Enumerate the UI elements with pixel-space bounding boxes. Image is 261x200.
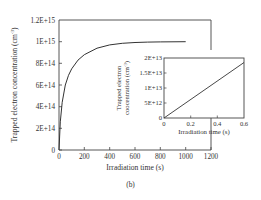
main-xtick-label: 1000 xyxy=(179,153,194,161)
main-x-axis-label: Irradiation time (s) xyxy=(106,163,164,172)
main-y-axis-label: Trapped electron concentration (cm-3) xyxy=(10,27,19,142)
inset-y-axis-label-line1: Trapped electron xyxy=(115,65,122,110)
main-ytick-label: 1E+15 xyxy=(36,38,56,46)
inset-x-axis-label: Irradiation time (s) xyxy=(178,128,229,136)
main-x-ticks: 0 200 400 600 800 1000 1200 xyxy=(57,147,218,161)
inset-ytick-label: 1E+13 xyxy=(144,84,162,91)
inset-xtick-label: 0.2 xyxy=(187,120,195,127)
main-ytick-label: 6E+14 xyxy=(36,82,56,90)
main-xtick-label: 600 xyxy=(130,153,141,161)
inset-ytick-label: 1.5E+13 xyxy=(139,69,162,76)
inset-xtick-label: 0 xyxy=(162,120,166,127)
main-xtick-label: 1200 xyxy=(204,153,219,161)
inset-xtick-label: 0.4 xyxy=(213,120,222,127)
main-ytick-label: 0 xyxy=(51,147,55,155)
main-ytick-label: 2E+14 xyxy=(36,125,56,133)
main-y-ticks: 0 2E+14 4E+14 6E+14 8E+14 1E+15 1.2E+15 xyxy=(30,17,62,155)
main-ytick-label: 8E+14 xyxy=(36,60,56,68)
figure: 0 2E+14 4E+14 6E+14 8E+14 1E+15 1.2E+15 … xyxy=(0,0,261,200)
main-ytick-label: 4E+14 xyxy=(36,103,56,111)
inset-y-axis-label-line2: coocentration (cm-3) xyxy=(123,61,132,115)
main-xtick-label: 400 xyxy=(104,153,115,161)
inset-xtick-label: 0.6 xyxy=(240,120,249,127)
inset-ytick-label: 5E+12 xyxy=(144,99,162,106)
inset-ytick-label: 2E+13 xyxy=(144,54,162,61)
inset-frame xyxy=(164,58,244,118)
main-xtick-label: 200 xyxy=(79,153,90,161)
inset-plot: 0 5E+12 1E+13 1.5E+13 2E+13 0 0.2 0.4 0.… xyxy=(115,54,249,136)
main-frame-top-right xyxy=(59,20,211,50)
main-xtick-label: 800 xyxy=(155,153,166,161)
main-xtick-label: 0 xyxy=(57,153,61,161)
main-ytick-label: 1.2E+15 xyxy=(30,17,55,25)
inset-y-ticks: 0 5E+12 1E+13 1.5E+13 2E+13 xyxy=(139,54,166,121)
figure-caption: (b) xyxy=(126,180,135,189)
